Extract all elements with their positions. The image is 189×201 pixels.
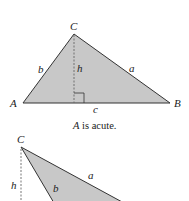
bottom-triangle-group: C h b a [11, 133, 124, 201]
side-label-b-bottom: b [53, 182, 59, 194]
height-label-h-bottom: h [11, 179, 17, 191]
caption-text: is acute. [79, 120, 116, 131]
acute-triangle [23, 34, 170, 103]
obtuse-triangle [21, 147, 124, 201]
vertex-label-a: A [9, 97, 17, 109]
side-label-b: b [38, 63, 44, 75]
vertex-label-c-bottom: C [17, 133, 25, 145]
vertex-label-b: B [174, 97, 181, 109]
side-label-a-bottom: a [88, 169, 94, 181]
side-label-a: a [129, 62, 135, 74]
vertex-label-c: C [70, 20, 78, 32]
caption: A is acute. [72, 120, 116, 131]
top-triangle-group: C A B b h a c A is acute. [9, 20, 181, 131]
side-label-c: c [93, 103, 98, 115]
height-label-h: h [77, 62, 83, 74]
triangle-diagram: C A B b h a c A is acute. C h b a [0, 0, 189, 201]
